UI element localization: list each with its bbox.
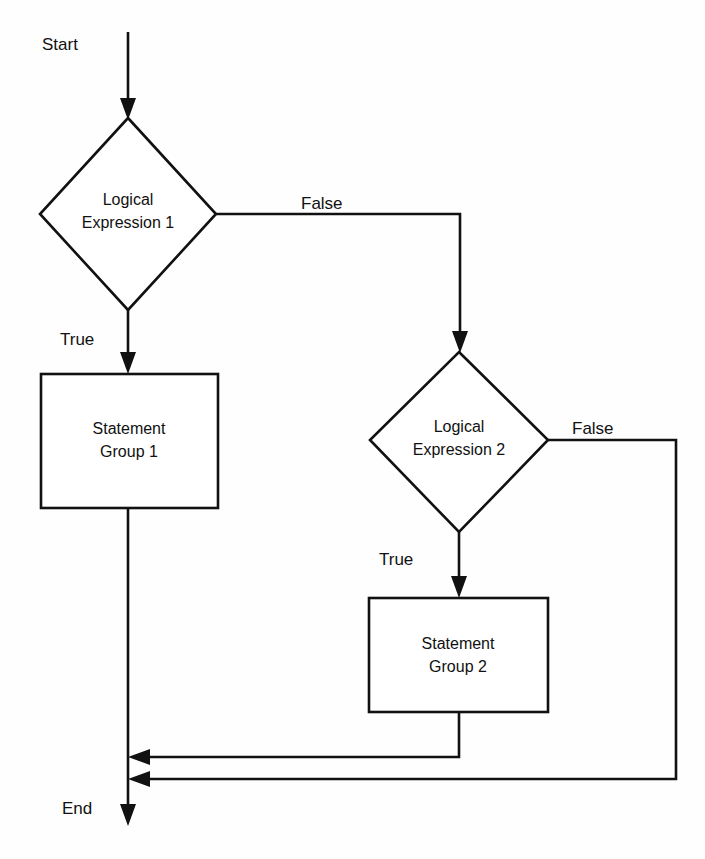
edge-process2-to-end: [128, 712, 459, 765]
decision2-label-line1: Logical: [434, 418, 485, 435]
process-node-statement-group-2[interactable]: [369, 598, 548, 712]
decision1-label-line1: Logical: [103, 191, 154, 208]
decision1-true-arrow-head: [120, 352, 136, 374]
edge-decision1-true: [120, 310, 136, 374]
flowchart-canvas: Logical Expression 1 Statement Group 1 L…: [0, 0, 705, 859]
decision1-false-line: [216, 214, 460, 340]
decision1-label-line2: Expression 1: [82, 214, 175, 231]
process-node-statement-group-1[interactable]: [41, 374, 218, 508]
process2-label-line1: Statement: [422, 635, 495, 652]
decision1-false-arrow-head: [452, 331, 468, 353]
edge-label-decision2-false: False: [572, 419, 614, 438]
end-arrow-head: [120, 804, 136, 826]
decision2-true-arrow-head: [451, 576, 467, 598]
end-terminal-label: End: [62, 799, 92, 818]
process2-merge-line: [140, 712, 459, 757]
start-terminal-label: Start: [42, 35, 78, 54]
edge-decision2-true: [451, 532, 467, 598]
process1-label-line2: Group 1: [100, 443, 158, 460]
process2-merge-arrow-head: [128, 749, 150, 765]
edge-label-decision1-false: False: [301, 194, 343, 213]
edge-label-decision1-true: True: [60, 330, 94, 349]
flowchart-svg: Logical Expression 1 Statement Group 1 L…: [0, 0, 705, 859]
process1-label-line1: Statement: [93, 420, 166, 437]
decision2-false-arrow-head: [128, 771, 150, 787]
edge-start-to-decision1: [120, 32, 136, 120]
process2-label-line2: Group 2: [429, 658, 487, 675]
decision2-label-line2: Expression 2: [413, 441, 506, 458]
edge-label-decision2-true: True: [379, 550, 413, 569]
edge-decision1-false: [216, 214, 468, 353]
